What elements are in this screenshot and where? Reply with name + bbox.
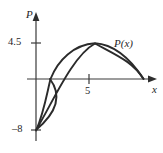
y-axis-arrow-icon: [33, 12, 40, 21]
parabola-figure: P x 4.5 –8 5 P(x): [0, 0, 163, 153]
y-axis-label: P: [26, 9, 33, 20]
x-axis-label: x: [152, 84, 157, 95]
x-axis-arrow-icon: [148, 76, 157, 83]
curve-label: P(x): [114, 38, 133, 49]
y-tick-label-4p5: 4.5: [8, 37, 21, 48]
x-tick-label-5: 5: [85, 86, 90, 97]
y-tick-label-neg8: –8: [12, 124, 23, 135]
plot-canvas: [0, 0, 163, 153]
